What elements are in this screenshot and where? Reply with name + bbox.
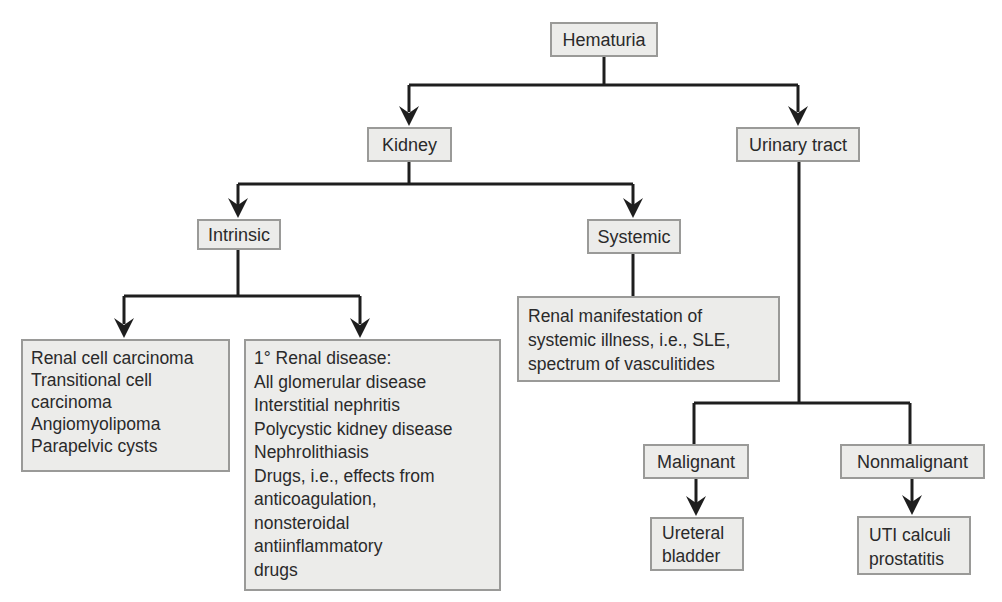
node-line: anticoagulation, bbox=[254, 488, 491, 512]
node-line: Nephrolithiasis bbox=[254, 441, 491, 465]
node-nonmalignant-label: Nonmalignant bbox=[857, 451, 968, 473]
node-line: prostatitis bbox=[869, 547, 959, 571]
node-urinary-tract-label: Urinary tract bbox=[749, 134, 847, 156]
node-line: drugs bbox=[254, 559, 491, 583]
node-line: Drugs, i.e., effects from bbox=[254, 465, 491, 489]
node-systemic-illness: Renal manifestation of systemic illness,… bbox=[517, 296, 780, 382]
node-line: 1° Renal disease: bbox=[254, 347, 491, 371]
node-line: Transitional cell bbox=[31, 369, 220, 391]
node-line: Angiomyolipoma bbox=[31, 413, 220, 435]
node-line: Renal manifestation of bbox=[528, 304, 769, 328]
node-malignant-label: Malignant bbox=[657, 451, 735, 473]
node-line: carcinoma bbox=[31, 391, 220, 413]
node-nonmalignant: Nonmalignant bbox=[840, 444, 985, 479]
node-line: Parapelvic cysts bbox=[31, 435, 220, 457]
node-line: Interstitial nephritis bbox=[254, 394, 491, 418]
hematuria-flowchart: Hematuria Kidney Urinary tract Intrinsic… bbox=[0, 0, 1002, 602]
node-line: All glomerular disease bbox=[254, 371, 491, 395]
node-kidney: Kidney bbox=[367, 127, 452, 162]
node-intrinsic-tumors: Renal cell carcinoma Transitional cell c… bbox=[21, 339, 230, 472]
node-hematuria: Hematuria bbox=[550, 22, 658, 57]
node-uti-calculi: UTI calculi prostatitis bbox=[857, 516, 971, 575]
node-line: bladder bbox=[662, 545, 732, 568]
node-line: Ureteral bbox=[662, 522, 732, 545]
node-line: spectrum of vasculitides bbox=[528, 352, 769, 376]
node-line: UTI calculi bbox=[869, 523, 959, 547]
node-line: systemic illness, i.e., SLE, bbox=[528, 328, 769, 352]
node-intrinsic-label: Intrinsic bbox=[208, 224, 270, 246]
node-line: nonsteroidal bbox=[254, 512, 491, 536]
node-primary-renal-disease: 1° Renal disease: All glomerular disease… bbox=[244, 339, 501, 591]
node-hematuria-label: Hematuria bbox=[562, 29, 645, 51]
node-intrinsic: Intrinsic bbox=[197, 219, 281, 250]
node-line: Polycystic kidney disease bbox=[254, 418, 491, 442]
node-systemic: Systemic bbox=[587, 219, 681, 254]
connector-lines bbox=[0, 0, 1002, 602]
node-line: Renal cell carcinoma bbox=[31, 347, 220, 369]
node-systemic-label: Systemic bbox=[597, 226, 670, 248]
node-urinary-tract: Urinary tract bbox=[736, 127, 860, 162]
node-ureteral-bladder: Ureteral bladder bbox=[650, 517, 744, 571]
node-malignant: Malignant bbox=[643, 444, 749, 479]
node-kidney-label: Kidney bbox=[382, 134, 437, 156]
node-line: antiinflammatory bbox=[254, 535, 491, 559]
